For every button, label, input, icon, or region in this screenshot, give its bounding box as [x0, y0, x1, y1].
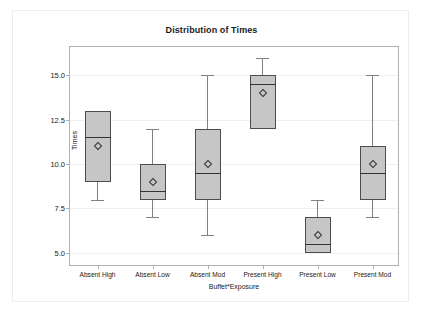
- boxplot-figure: Distribution of Times 5.07.510.012.515.0…: [0, 0, 421, 313]
- median-line: [140, 191, 166, 192]
- y-tick-mark: [66, 208, 70, 209]
- y-axis-title: Times: [71, 111, 78, 171]
- y-tick-label: 7.5: [55, 204, 65, 213]
- y-tick-label: 12.5: [50, 115, 65, 124]
- lower-whisker-cap: [91, 200, 104, 201]
- lower-whisker-cap: [366, 217, 379, 218]
- gridline: [70, 120, 398, 121]
- median-line: [195, 173, 221, 174]
- upper-whisker: [152, 129, 153, 164]
- y-tick-mark: [66, 75, 70, 76]
- x-tick-label: Absent Mod: [190, 271, 225, 278]
- x-tick-mark: [373, 265, 374, 269]
- upper-whisker: [372, 75, 373, 146]
- y-tick-mark: [66, 164, 70, 165]
- x-tick-label: Present Mod: [354, 271, 391, 278]
- chart-title: Distribution of Times: [13, 25, 410, 35]
- x-tick-mark: [318, 265, 319, 269]
- lower-whisker: [97, 182, 98, 200]
- lower-whisker: [372, 200, 373, 218]
- y-tick-mark: [66, 253, 70, 254]
- upper-whisker-cap: [146, 129, 159, 130]
- gridline: [70, 75, 398, 76]
- y-tick-label: 5.0: [55, 248, 65, 257]
- gridline: [70, 164, 398, 165]
- x-tick-label: Absent High: [80, 271, 116, 278]
- x-axis-title: Buffet*Exposure: [70, 283, 398, 290]
- median-line: [85, 137, 111, 138]
- x-tick-mark: [98, 265, 99, 269]
- x-tick-mark: [208, 265, 209, 269]
- upper-whisker-cap: [256, 58, 269, 59]
- upper-whisker: [262, 58, 263, 76]
- plot-area: 5.07.510.012.515.0 Absent HighAbsent Low…: [69, 46, 399, 266]
- gridline: [70, 253, 398, 254]
- x-tick-label: Absent Low: [135, 271, 169, 278]
- median-line: [360, 173, 386, 174]
- lower-whisker-cap: [146, 217, 159, 218]
- lower-whisker: [207, 200, 208, 235]
- x-tick-label: Present High: [243, 271, 281, 278]
- upper-whisker: [207, 75, 208, 128]
- y-tick-mark: [66, 120, 70, 121]
- gridline: [70, 208, 398, 209]
- x-tick-mark: [263, 265, 264, 269]
- upper-whisker: [317, 200, 318, 218]
- median-line: [250, 84, 276, 85]
- x-tick-mark: [153, 265, 154, 269]
- x-tick-label: Present Low: [299, 271, 336, 278]
- lower-whisker-cap: [201, 235, 214, 236]
- graph-panel: Distribution of Times 5.07.510.012.515.0…: [12, 10, 409, 302]
- upper-whisker-cap: [366, 75, 379, 76]
- upper-whisker-cap: [311, 200, 324, 201]
- upper-whisker-cap: [201, 75, 214, 76]
- y-tick-label: 10.0: [50, 160, 65, 169]
- y-tick-label: 15.0: [50, 71, 65, 80]
- lower-whisker: [152, 200, 153, 218]
- median-line: [305, 244, 331, 245]
